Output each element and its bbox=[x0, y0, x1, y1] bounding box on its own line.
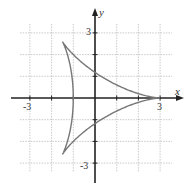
y-axis-arrow-icon bbox=[92, 8, 98, 16]
y-axis-label: y bbox=[98, 6, 104, 18]
x-tick-label-3: 3 bbox=[157, 101, 162, 112]
y-tick-label-neg3: -3 bbox=[80, 160, 88, 171]
y-tick-label-3: 3 bbox=[86, 26, 91, 37]
x-axis-label: x bbox=[174, 85, 180, 97]
axes bbox=[11, 8, 184, 183]
x-tick-label-neg3: -3 bbox=[23, 101, 31, 112]
deltoid-plot: -3 3 3 -3 x y bbox=[0, 0, 190, 185]
